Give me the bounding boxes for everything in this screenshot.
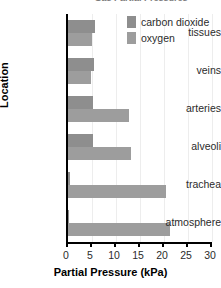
x-tick-label-10: 10: [102, 249, 126, 261]
x-tick-label-20: 20: [150, 249, 174, 261]
plot-area: [66, 14, 212, 242]
bar-oxygen: [68, 223, 170, 236]
x-tick: [66, 242, 68, 247]
bar-carbon-dioxide: [68, 210, 69, 223]
x-tick-label-5: 5: [78, 249, 102, 261]
x-tick: [114, 242, 116, 247]
x-tick: [162, 242, 164, 247]
bar-oxygen: [68, 71, 91, 84]
x-tick: [90, 242, 92, 247]
bar-oxygen: [68, 147, 131, 160]
bar-chart-figure: Gas Partial Pressures tissuesveinsarteri…: [0, 0, 221, 288]
legend-swatch-icon: [127, 16, 136, 28]
y-tick-label-trachea: trachea: [159, 179, 221, 190]
x-tick: [210, 242, 212, 247]
gridline: [212, 14, 213, 242]
x-tick: [138, 242, 140, 247]
chart-legend: carbon dioxideoxygen: [127, 15, 209, 47]
bar-oxygen: [68, 185, 166, 198]
bar-oxygen: [68, 33, 92, 46]
legend-item-carbon-dioxide: carbon dioxide: [127, 15, 209, 28]
y-axis-title: Location: [0, 62, 10, 108]
chart-title: Gas Partial Pressures: [66, 0, 216, 1]
legend-label: carbon dioxide: [141, 16, 209, 28]
bar-carbon-dioxide: [68, 96, 93, 109]
x-tick-label-15: 15: [126, 249, 150, 261]
y-tick-label-veins: veins: [159, 65, 221, 76]
legend-swatch-icon: [127, 32, 136, 44]
bar-carbon-dioxide: [68, 20, 95, 33]
bar-oxygen: [68, 109, 129, 122]
legend-item-oxygen: oxygen: [127, 31, 209, 44]
bar-carbon-dioxide: [68, 58, 94, 71]
x-axis-title: Partial Pressure (kPa): [0, 266, 221, 278]
legend-label: oxygen: [141, 32, 175, 44]
x-tick-label-30: 30: [198, 249, 221, 261]
x-tick-label-0: 0: [54, 249, 78, 261]
bar-carbon-dioxide: [68, 134, 93, 147]
bar-carbon-dioxide: [68, 172, 70, 185]
x-tick: [186, 242, 188, 247]
y-tick-label-arteries: arteries: [159, 103, 221, 114]
y-tick-label-atmosphere: atmosphere: [159, 217, 221, 228]
x-tick-label-25: 25: [174, 249, 198, 261]
y-tick-label-alveoli: alveoli: [159, 141, 221, 152]
